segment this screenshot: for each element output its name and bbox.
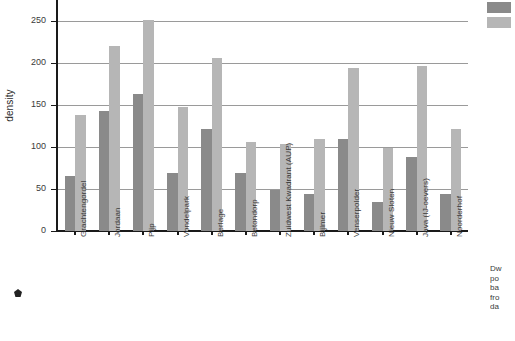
x-tick-mark	[108, 231, 110, 235]
bar	[109, 46, 120, 231]
legend-swatch-dark	[487, 2, 511, 13]
bar	[406, 157, 417, 231]
x-tick-label: Betondorp	[250, 199, 259, 237]
legend-caption-line: Dw	[490, 264, 515, 274]
x-tick-mark	[211, 231, 213, 235]
y-axis-ticks: 050100150200250	[0, 0, 58, 232]
y-tick-label: 50	[20, 183, 46, 193]
x-tick-label: Venserpolder	[352, 189, 361, 237]
x-tick-mark	[347, 231, 349, 235]
x-tick-mark	[142, 231, 144, 235]
x-tick-label: Vondelpark	[182, 196, 191, 237]
x-tick-label: Nieuw Sloten	[387, 189, 396, 237]
x-tick-label: Bijlmer	[318, 212, 327, 237]
bar	[270, 190, 281, 231]
legend	[487, 2, 515, 32]
bar	[133, 94, 144, 231]
x-tick-label: Pijp	[147, 223, 156, 237]
legend-caption-line: fro	[490, 293, 515, 303]
y-tick-label: 250	[20, 15, 46, 25]
bar	[372, 202, 383, 231]
legend-caption-line: po	[490, 274, 515, 284]
x-tick-label: Java (IJ-oevers)	[421, 178, 430, 237]
x-tick-mark	[450, 231, 452, 235]
y-tick-label: 150	[20, 99, 46, 109]
bar	[167, 173, 178, 231]
legend-caption-line: ba	[490, 283, 515, 293]
bar	[338, 139, 349, 231]
legend-swatch-light	[487, 17, 511, 28]
bar	[201, 129, 212, 231]
y-tick-label: 100	[20, 141, 46, 151]
x-tick-mark	[416, 231, 418, 235]
legend-caption-line: da	[490, 302, 515, 312]
x-tick-mark	[382, 231, 384, 235]
bar	[99, 111, 110, 231]
x-axis-labels: GrachtengordelJordaanPijpVondelparkBerla…	[0, 231, 507, 341]
x-tick-mark	[245, 231, 247, 235]
bar	[440, 194, 451, 231]
x-tick-label: Berlage	[216, 209, 225, 237]
bar	[212, 58, 223, 231]
y-tick-label: 200	[20, 57, 46, 67]
x-tick-mark	[177, 231, 179, 235]
x-tick-mark	[313, 231, 315, 235]
x-tick-label: Zuidwest Kwadrant (AUP)	[284, 143, 293, 237]
legend-caption: Dwpobafroda	[490, 264, 515, 312]
x-tick-mark	[74, 231, 76, 235]
x-tick-mark	[279, 231, 281, 235]
bar	[304, 194, 315, 231]
x-tick-label: Noorderhof	[455, 196, 464, 237]
bar	[235, 173, 246, 231]
x-tick-label: Jordaan	[113, 207, 122, 237]
bar	[143, 20, 154, 231]
x-tick-label: Grachtengordel	[79, 180, 88, 237]
bar	[65, 176, 76, 231]
bars-layer	[58, 0, 468, 231]
